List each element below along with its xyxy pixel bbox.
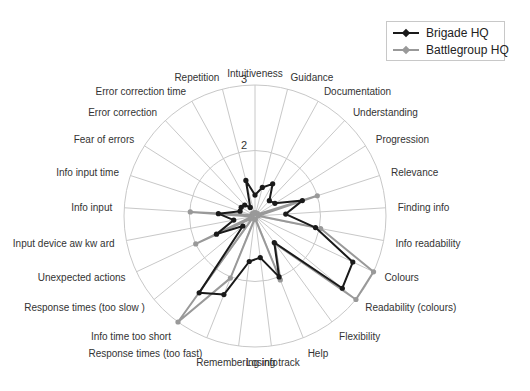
data-point-marker bbox=[214, 232, 219, 237]
category-label: Flexibility bbox=[339, 331, 380, 342]
legend-label: Battlegroup HQ bbox=[426, 43, 509, 57]
category-label: Progression bbox=[376, 134, 429, 145]
category-label: Response times (too slow ) bbox=[24, 302, 145, 313]
category-label: Info input time bbox=[56, 167, 119, 178]
category-label: Relevance bbox=[391, 167, 439, 178]
data-point-marker bbox=[267, 198, 272, 203]
data-point-marker bbox=[247, 259, 252, 264]
category-label: Info time too short bbox=[91, 331, 171, 342]
category-label: Understanding bbox=[353, 107, 418, 118]
category-label: Unexpected actions bbox=[38, 272, 126, 283]
data-point-marker bbox=[353, 297, 358, 302]
data-point-marker bbox=[216, 211, 221, 216]
data-point-marker bbox=[340, 286, 345, 291]
data-point-marker bbox=[228, 276, 233, 281]
category-label: Documentation bbox=[324, 86, 391, 97]
legend-item-brigade-hq: Brigade HQ bbox=[393, 25, 489, 41]
data-point-marker bbox=[242, 202, 247, 207]
data-point-marker bbox=[277, 274, 282, 279]
category-label: Help bbox=[308, 348, 329, 359]
data-point-marker bbox=[283, 211, 288, 216]
data-point-marker bbox=[243, 178, 248, 183]
data-point-marker bbox=[175, 319, 180, 324]
category-label: Error correction time bbox=[96, 86, 187, 97]
category-label: Input device aw kw ard bbox=[13, 238, 115, 249]
data-point-marker bbox=[350, 259, 355, 264]
radar-grid bbox=[124, 85, 386, 347]
legend-label: Brigade HQ bbox=[426, 26, 489, 40]
data-point-marker bbox=[300, 198, 305, 203]
data-point-marker bbox=[188, 209, 193, 214]
category-label: Remembering info bbox=[196, 357, 278, 368]
category-label: Intuitiveness bbox=[227, 68, 283, 79]
data-point-marker bbox=[231, 217, 236, 222]
category-label: Error correction bbox=[88, 107, 157, 118]
data-point-marker bbox=[272, 201, 277, 206]
data-point-marker bbox=[270, 181, 275, 186]
legend-item-battlegroup-hq: Battlegroup HQ bbox=[393, 42, 509, 58]
data-point-marker bbox=[260, 185, 265, 190]
category-label: Readability (colours) bbox=[365, 302, 456, 313]
data-point-marker bbox=[240, 223, 245, 228]
legend-swatch-icon bbox=[393, 45, 419, 55]
category-labels: IntuitivenessGuidanceDocumentationUnders… bbox=[13, 68, 461, 368]
data-point-marker bbox=[248, 205, 253, 210]
category-label: Colours bbox=[384, 272, 418, 283]
data-point-marker bbox=[252, 192, 257, 197]
legend-swatch-icon bbox=[393, 28, 419, 38]
data-point-marker bbox=[313, 225, 318, 230]
data-point-marker bbox=[252, 210, 257, 215]
category-label: Response times (too fast) bbox=[88, 348, 202, 359]
legend: Brigade HQ Battlegroup HQ bbox=[386, 21, 505, 61]
radial-tick-labels: 23 bbox=[241, 73, 247, 151]
category-label: Repetition bbox=[174, 72, 219, 83]
category-label: Guidance bbox=[291, 72, 334, 83]
data-point-marker bbox=[371, 269, 376, 274]
category-label: Finding info bbox=[398, 202, 450, 213]
data-point-marker bbox=[197, 290, 202, 295]
data-point-marker bbox=[221, 292, 226, 297]
data-point-marker bbox=[315, 193, 320, 198]
data-point-marker bbox=[258, 255, 263, 260]
radial-tick-label: 2 bbox=[241, 139, 247, 151]
category-label: Info input bbox=[71, 202, 112, 213]
category-label: Info readability bbox=[395, 238, 460, 249]
data-point-marker bbox=[272, 240, 277, 245]
data-point-marker bbox=[193, 241, 198, 246]
category-label: Fear of errors bbox=[74, 134, 135, 145]
